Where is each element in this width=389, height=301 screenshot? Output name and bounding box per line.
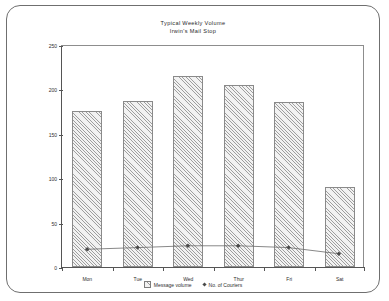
legend-item-couriers: No. of Couriers — [203, 282, 243, 288]
x-axis-tick-mark — [113, 267, 114, 271]
diamond-point-marker-icon — [202, 282, 206, 286]
y-axis-tick-label: 250 — [49, 43, 57, 49]
y-axis-tick-label: 0 — [54, 265, 57, 271]
x-axis-tick-mark — [62, 267, 63, 271]
y-axis-tick-label: 200 — [49, 87, 57, 93]
y-axis-tick-label: 150 — [49, 132, 57, 138]
courier-point-wed — [186, 244, 191, 249]
courier-point-tue — [135, 245, 140, 250]
courier-point-fri — [286, 245, 291, 250]
courier-point-sat — [337, 251, 342, 256]
legend-label-message-volume: Message volume — [154, 282, 192, 288]
x-axis-tick-mark — [163, 267, 164, 271]
chart-title-block: Typical Weekly Volume Irwin's Mail Stop — [7, 20, 379, 35]
y-axis-tick-label: 50 — [51, 221, 57, 227]
chart-subtitle: Irwin's Mail Stop — [7, 28, 379, 36]
page-title: Typical Weekly Volume — [7, 20, 379, 28]
x-axis-tick-mark — [364, 267, 365, 271]
x-axis-tick-mark — [214, 267, 215, 271]
legend-item-message-volume: Message volume — [144, 281, 192, 288]
courier-point-thur — [236, 244, 241, 249]
legend-label-couriers: No. of Couriers — [209, 282, 243, 288]
x-axis-tick-mark — [315, 267, 316, 271]
plot-area: 050100150200250 MonTueWedThurFriSat — [61, 46, 364, 268]
y-axis-tick-label: 100 — [49, 176, 57, 182]
courier-line-path — [87, 246, 339, 254]
chart-legend: Message volume No. of Couriers — [7, 281, 379, 288]
chart-frame: Typical Weekly Volume Irwin's Mail Stop … — [6, 5, 380, 293]
line-series-couriers — [62, 46, 364, 267]
hatched-square-swatch-icon — [144, 281, 151, 288]
courier-point-mon — [85, 247, 90, 252]
x-axis-tick-mark — [264, 267, 265, 271]
